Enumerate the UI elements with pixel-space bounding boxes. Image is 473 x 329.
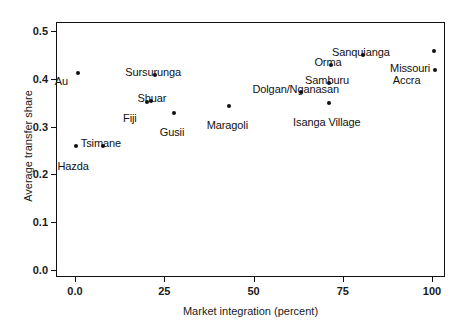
y-tick-label: 0.4 [0, 73, 48, 84]
scatter-plot-figure: Average transfer share 0.00.10.20.30.40.… [0, 0, 473, 329]
x-tick-label: 25 [134, 286, 194, 297]
x-tick-label: 75 [313, 286, 373, 297]
x-tick-label: 100 [402, 286, 462, 297]
data-point-label: Isanga Village [293, 117, 361, 128]
data-point-label: Au [55, 76, 68, 87]
x-tick-mark [343, 277, 344, 282]
data-point-label: Shuar [137, 93, 166, 104]
data-point-label: Tsimane [81, 138, 121, 149]
data-point-label: Orma [314, 57, 341, 68]
y-tick-label: 0.5 [0, 26, 48, 37]
data-point [327, 101, 331, 105]
y-tick-label: 0.3 [0, 121, 48, 132]
x-tick-mark [254, 277, 255, 282]
data-point-label: Sursurunga [125, 67, 181, 78]
data-point [76, 71, 80, 75]
y-tick-label: 0.2 [0, 169, 48, 180]
x-tick-mark [432, 277, 433, 282]
data-point [227, 104, 231, 108]
data-point-label: Sanquianga [332, 47, 390, 58]
plot-area: AuHazdaTsimaneFijiShuarSursurungaGusiiMa… [56, 22, 445, 277]
data-point [433, 68, 437, 72]
data-point [432, 49, 436, 53]
data-point-label: Samburu [305, 75, 349, 86]
x-tick-mark [75, 277, 76, 282]
data-point-label: Hazda [58, 161, 89, 172]
x-tick-label: 50 [224, 286, 284, 297]
data-point-label: Maragoli [207, 120, 248, 131]
data-point-label: Accra [393, 75, 421, 86]
y-tick-label: 0.1 [0, 217, 48, 228]
data-point [74, 144, 78, 148]
y-tick-label: 0.0 [0, 265, 48, 276]
data-point-label: Missouri [390, 63, 430, 74]
data-point-label: Fiji [123, 113, 137, 124]
x-tick-label: 0.0 [45, 286, 105, 297]
x-tick-mark [164, 277, 165, 282]
x-axis-label: Market integration (percent) [56, 305, 445, 317]
data-point-label: Gusii [160, 127, 185, 138]
data-point [172, 111, 176, 115]
